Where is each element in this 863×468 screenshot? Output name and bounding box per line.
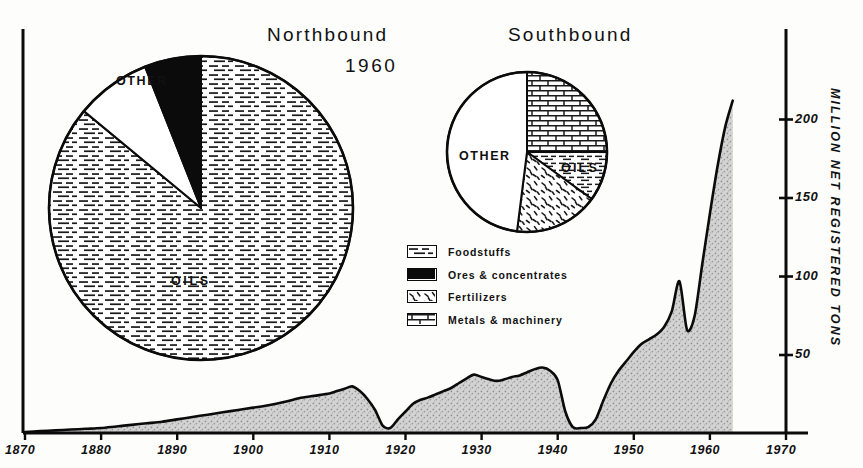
x-tick-label: 1890 xyxy=(157,443,187,457)
legend-label: Foodstuffs xyxy=(448,246,511,258)
x-tick-label: 1880 xyxy=(81,443,111,457)
south-pie-label-other: OTHER xyxy=(459,149,511,163)
legend-swatch xyxy=(407,245,437,258)
x-tick-label: 1910 xyxy=(309,443,339,457)
legend-label: Ores & concentrates xyxy=(448,269,568,281)
north-pie-label-oils: OILS xyxy=(171,274,211,288)
x-tick-label: 1940 xyxy=(538,443,568,457)
title-northbound: Northbound xyxy=(267,24,388,46)
legend-label: Fertilizers xyxy=(448,291,508,303)
x-tick-label: 1920 xyxy=(386,443,416,457)
legend-swatch xyxy=(407,313,437,326)
x-tick-label: 1970 xyxy=(766,443,796,457)
x-tick-label: 1960 xyxy=(690,443,720,457)
y-tick-label: 100 xyxy=(795,268,818,283)
y-tick-label: 150 xyxy=(795,189,818,204)
chart-canvas: Northbound Southbound 1960 OTHER OILS OT… xyxy=(0,0,863,468)
x-tick-label: 1930 xyxy=(462,443,492,457)
y-tick-label: 50 xyxy=(795,346,810,361)
title-year: 1960 xyxy=(345,55,397,77)
legend-swatch xyxy=(407,290,437,303)
y-tick-label: 200 xyxy=(795,111,818,126)
x-tick-label: 1870 xyxy=(5,443,35,457)
south-pie-label-oils: OILS xyxy=(561,161,599,175)
pie-northbound xyxy=(49,56,353,360)
x-tick-label: 1950 xyxy=(614,443,644,457)
north-pie-label-other: OTHER xyxy=(116,74,168,88)
y-axis-title: MILLION NET REGISTERED TONS xyxy=(828,88,842,347)
chart-svg xyxy=(0,0,863,468)
x-tick-label: 1900 xyxy=(233,443,263,457)
title-southbound: Southbound xyxy=(508,24,633,46)
legend-swatch xyxy=(407,268,437,281)
legend-label: Metals & machinery xyxy=(448,314,563,326)
